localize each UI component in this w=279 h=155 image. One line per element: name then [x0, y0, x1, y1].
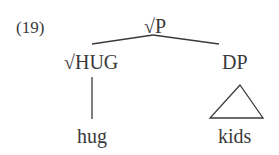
terminal-hug: hug	[77, 126, 107, 146]
node-left: √HUG	[64, 52, 118, 72]
node-root: √P	[144, 16, 166, 36]
terminal-kids: kids	[218, 126, 251, 146]
triangle-dp	[210, 85, 263, 118]
node-right: DP	[222, 52, 248, 72]
example-number: (19)	[16, 18, 44, 38]
